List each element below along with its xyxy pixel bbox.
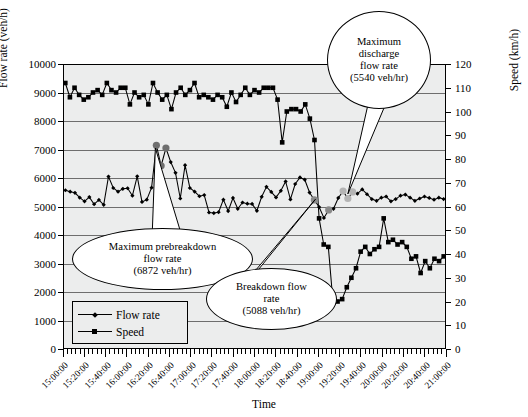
x-axis-tick	[250, 349, 251, 354]
x-axis-tick	[224, 349, 225, 354]
x-axis-tick	[220, 349, 221, 354]
x-axis-tick	[131, 349, 132, 354]
y-axis-left-tick-label: 6000	[10, 172, 56, 184]
x-axis-tick	[326, 349, 327, 354]
x-axis-tick	[173, 349, 174, 354]
x-axis-tick	[135, 349, 136, 354]
x-axis-tick	[148, 349, 149, 357]
legend-item-flow-rate: Flow rate	[78, 306, 182, 323]
annotation-line: flow rate	[360, 60, 398, 72]
x-axis-tick	[156, 349, 157, 354]
x-axis-tick	[407, 349, 408, 354]
y-axis-right-tick-label: 30	[455, 272, 489, 284]
x-axis-tick	[216, 349, 217, 354]
x-axis-tick	[386, 349, 387, 354]
y-axis-right-tick-label: 110	[455, 82, 489, 94]
y-axis-left-tick	[58, 64, 63, 65]
x-axis-tick	[284, 349, 285, 354]
x-axis-tick	[280, 349, 281, 354]
y-axis-right-tick	[446, 88, 451, 89]
x-axis-tick	[245, 349, 246, 354]
y-axis-left-tick	[58, 178, 63, 179]
y-axis-left-tick-label: 4000	[10, 229, 56, 241]
x-axis-tick	[288, 349, 289, 354]
y-axis-left-tick	[58, 321, 63, 322]
x-axis-tick	[343, 349, 344, 354]
annotation-line: discharge	[359, 48, 399, 60]
x-axis-tick	[437, 349, 438, 354]
x-axis-tick	[126, 349, 127, 357]
x-axis-tick	[122, 349, 123, 354]
flow-rate-marker-icon	[78, 309, 112, 321]
x-axis-tick	[160, 349, 161, 354]
x-axis-tick	[382, 349, 383, 357]
y-axis-left-tick-label: 9000	[10, 87, 56, 99]
x-axis-tick	[109, 349, 110, 354]
y-axis-right-tick	[446, 159, 451, 160]
x-axis-tick	[331, 349, 332, 354]
x-axis-tick	[403, 349, 404, 357]
y-axis-left-title: Flow rate (veh/h)	[0, 0, 9, 128]
y-axis-left-tick	[58, 121, 63, 122]
gridline	[64, 178, 445, 179]
x-axis-tick	[433, 349, 434, 354]
x-axis-tick	[203, 349, 204, 354]
annotation-line: Maximum prebreakdown	[109, 241, 216, 253]
x-axis-tick	[152, 349, 153, 354]
y-axis-left-tick-label: 5000	[10, 201, 56, 213]
x-axis-tick	[356, 349, 357, 354]
y-axis-left-tick	[58, 264, 63, 265]
x-axis-tick	[318, 349, 319, 357]
legend-item-speed: Speed	[78, 323, 182, 340]
x-axis-tick	[394, 349, 395, 354]
y-axis-right-tick-label: 80	[455, 153, 489, 165]
annotation-line: (5088 veh/hr)	[243, 305, 301, 317]
x-axis-tick	[390, 349, 391, 354]
x-axis-tick	[446, 349, 447, 357]
x-axis-tick	[241, 349, 242, 354]
x-axis-tick	[428, 349, 429, 354]
x-axis-tick	[105, 349, 106, 357]
y-axis-right-tick-label: 90	[455, 129, 489, 141]
y-axis-right-tick	[446, 278, 451, 279]
x-axis-tick	[254, 349, 255, 357]
legend-label-speed: Speed	[116, 326, 144, 338]
x-axis-tick	[420, 349, 421, 354]
y-axis-right-tick-label: 100	[455, 106, 489, 118]
y-axis-left-tick-label: 10000	[10, 58, 56, 70]
annotation-line: (5540 veh/hr)	[350, 72, 408, 84]
y-axis-right-title: Speed (km/h)	[508, 0, 520, 130]
x-axis-tick	[322, 349, 323, 354]
x-axis-tick	[399, 349, 400, 354]
x-axis-tick	[301, 349, 302, 354]
x-axis-tick	[80, 349, 81, 354]
x-axis-tick	[377, 349, 378, 354]
x-axis-tick	[165, 349, 166, 354]
x-axis-tick	[75, 349, 76, 354]
x-axis-tick	[411, 349, 412, 354]
x-axis-tick	[314, 349, 315, 354]
x-axis-tick	[186, 349, 187, 354]
y-axis-right-tick-label: 60	[455, 201, 489, 213]
y-axis-right-tick	[446, 325, 451, 326]
y-axis-right-tick-label: 40	[455, 248, 489, 260]
y-axis-right-tick-label: 10	[455, 319, 489, 331]
y-axis-right-tick	[446, 64, 451, 65]
x-axis-tick	[207, 349, 208, 354]
x-axis-tick	[67, 349, 68, 354]
x-axis-tick	[360, 349, 361, 357]
annotation-line: Breakdown flow	[236, 281, 307, 293]
x-axis-tick	[263, 349, 264, 354]
x-axis-tick	[271, 349, 272, 354]
x-axis-tick	[424, 349, 425, 357]
y-axis-left-tick	[58, 207, 63, 208]
y-axis-left-tick-label: 7000	[10, 144, 56, 156]
y-axis-left-tick-label: 2000	[10, 286, 56, 298]
y-axis-left-tick	[58, 93, 63, 94]
x-axis-tick	[169, 349, 170, 357]
y-axis-right-tick	[446, 207, 451, 208]
x-axis-tick	[267, 349, 268, 354]
x-axis-tick	[365, 349, 366, 354]
x-axis-tick	[258, 349, 259, 354]
x-axis-tick	[177, 349, 178, 354]
